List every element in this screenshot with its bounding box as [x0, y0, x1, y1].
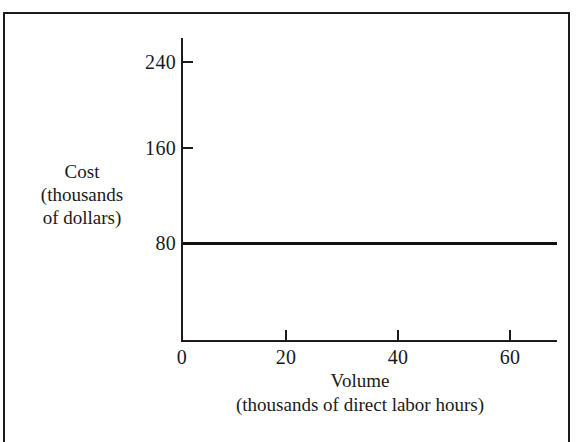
y-axis-title-line-3: of dollars)	[8, 206, 156, 229]
x-axis-title: Volume (thousands of direct labor hours)	[150, 369, 570, 417]
y-tick-mark-160	[182, 147, 193, 149]
y-axis-title-line-1: Cost	[8, 160, 156, 183]
x-axis-title-line-2: (thousands of direct labor hours)	[150, 393, 570, 417]
x-axis-title-line-1: Volume	[150, 369, 570, 393]
y-axis-line	[181, 38, 183, 342]
x-tick-label-20: 20	[256, 346, 316, 368]
x-tick-mark-40	[397, 330, 399, 340]
y-tick-label-160: 160	[116, 138, 176, 158]
x-tick-label-0: 0	[152, 346, 212, 368]
series-line-fixed-cost	[183, 242, 557, 245]
y-tick-label-80: 80	[116, 233, 176, 253]
y-axis-title-line-2: (thousands	[8, 183, 156, 206]
x-tick-mark-60	[509, 330, 511, 340]
x-tick-label-60: 60	[480, 346, 540, 368]
x-tick-mark-20	[285, 330, 287, 340]
y-tick-label-240: 240	[116, 52, 176, 72]
x-tick-label-40: 40	[368, 346, 428, 368]
y-axis-title: Cost (thousands of dollars)	[8, 160, 156, 229]
y-tick-mark-240	[182, 61, 193, 63]
x-axis-line	[181, 340, 557, 342]
